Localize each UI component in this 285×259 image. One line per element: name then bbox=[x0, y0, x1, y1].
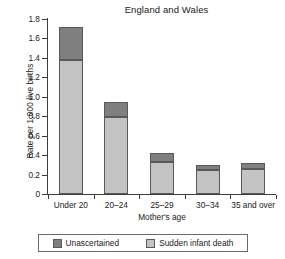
y-tick-mark bbox=[42, 194, 47, 195]
y-tick-mark bbox=[42, 116, 47, 117]
bar-stack[interactable] bbox=[104, 102, 128, 194]
y-tick-label: 0.6 bbox=[0, 131, 40, 141]
y-tick-label: 1.6 bbox=[0, 33, 40, 43]
bar-stack[interactable] bbox=[196, 165, 220, 194]
bar-segment-sudden-infant-death[interactable] bbox=[241, 169, 265, 194]
bar-segment-unascertained[interactable] bbox=[241, 163, 265, 169]
x-tick-label: 25–29 bbox=[150, 200, 173, 210]
bar-segment-unascertained[interactable] bbox=[196, 165, 220, 170]
x-tick-label: 35 and over bbox=[231, 200, 275, 210]
x-tick-mark bbox=[276, 195, 277, 199]
y-tick-mark bbox=[42, 175, 47, 176]
x-tick-mark bbox=[185, 195, 186, 199]
y-tick-mark bbox=[42, 19, 47, 20]
x-axis-spine bbox=[47, 194, 276, 195]
x-tick-label: 20–24 bbox=[105, 200, 128, 210]
y-tick-label: 0.8 bbox=[0, 111, 40, 121]
bar-segment-sudden-infant-death[interactable] bbox=[104, 117, 128, 194]
plot-area bbox=[48, 19, 276, 194]
legend-swatch-icon bbox=[53, 239, 62, 248]
y-tick-label: 1.0 bbox=[0, 92, 40, 102]
bar-segment-unascertained[interactable] bbox=[59, 27, 83, 60]
y-tick-label: 1.2 bbox=[0, 72, 40, 82]
x-tick-label: 30–34 bbox=[196, 200, 219, 210]
bar-stack[interactable] bbox=[241, 163, 265, 194]
bar-segment-sudden-infant-death[interactable] bbox=[150, 162, 174, 194]
bar-segment-unascertained[interactable] bbox=[104, 102, 128, 118]
y-tick-mark bbox=[42, 136, 47, 137]
legend-label: Unascertained bbox=[66, 238, 120, 248]
bar-segment-sudden-infant-death[interactable] bbox=[59, 60, 83, 194]
y-tick-label: 1.4 bbox=[0, 53, 40, 63]
chart-title: England and Wales bbox=[48, 4, 285, 15]
y-tick-mark bbox=[42, 38, 47, 39]
y-tick-label: 0.2 bbox=[0, 170, 40, 180]
y-tick-label: 0.4 bbox=[0, 150, 40, 160]
y-tick-mark bbox=[42, 97, 47, 98]
x-tick-mark bbox=[48, 195, 49, 199]
y-tick-mark bbox=[42, 58, 47, 59]
y-tick-label: 0 bbox=[0, 189, 40, 199]
x-tick-mark bbox=[94, 195, 95, 199]
y-tick-mark bbox=[42, 77, 47, 78]
legend-swatch-icon bbox=[146, 239, 155, 248]
x-tick-mark bbox=[139, 195, 140, 199]
chart-legend: UnascertainedSudden infant death bbox=[38, 234, 248, 252]
legend-entry[interactable]: Unascertained bbox=[53, 238, 120, 248]
x-tick-mark bbox=[230, 195, 231, 199]
y-tick-mark bbox=[42, 155, 47, 156]
legend-entry[interactable]: Sudden infant death bbox=[146, 238, 233, 248]
bar-stack[interactable] bbox=[150, 153, 174, 194]
bar-segment-sudden-infant-death[interactable] bbox=[196, 170, 220, 194]
x-tick-label: Under 20 bbox=[54, 200, 88, 210]
bar-stack[interactable] bbox=[59, 27, 83, 194]
chart-figure: England and Wales Rate per 1,000 live bi… bbox=[0, 0, 285, 259]
y-tick-label: 1.8 bbox=[0, 14, 40, 24]
bar-segment-unascertained[interactable] bbox=[150, 153, 174, 162]
legend-label: Sudden infant death bbox=[159, 238, 233, 248]
x-axis-title: Mother's age bbox=[48, 212, 276, 222]
